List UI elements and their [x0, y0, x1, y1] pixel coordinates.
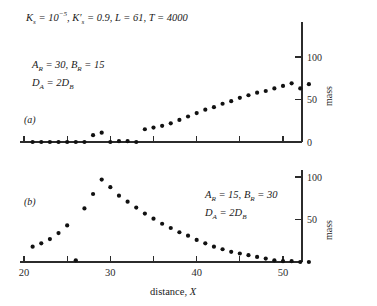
data-point-b-21 [31, 245, 35, 249]
data-point-b-37 [169, 226, 173, 230]
x-tick-label-20: 20 [19, 267, 30, 278]
data-point-b-25 [65, 223, 69, 227]
panel-a-tag: (a) [24, 114, 36, 125]
data-point-a-31 [117, 139, 121, 143]
data-point-a-34 [143, 127, 147, 131]
header-parameters: Ks = 10−5, K′s = 0.9, L = 61, T = 4000 [26, 10, 188, 26]
data-point-a-36 [160, 124, 164, 128]
x-axis-title: distance, X [150, 286, 196, 297]
data-point-a-49 [272, 86, 276, 90]
y-tick-label-1-50: 50 [307, 214, 317, 225]
data-point-a-44 [229, 99, 233, 103]
data-point-a-50 [281, 84, 285, 88]
data-point-b-24 [56, 231, 60, 235]
data-point-b-31 [117, 194, 121, 198]
data-point-b-27 [82, 206, 86, 210]
data-point-a-25 [65, 140, 69, 144]
data-point-b-43 [220, 247, 224, 251]
data-point-a-29 [100, 131, 104, 135]
data-point-a-30 [108, 140, 112, 144]
data-point-b-33 [134, 206, 138, 210]
panel-b-tag: (b) [24, 196, 36, 207]
data-point-a-21 [31, 140, 35, 144]
data-point-a-28 [91, 133, 95, 137]
data-point-b-35 [151, 217, 155, 221]
data-point-b-30 [108, 185, 112, 189]
data-point-b-45 [238, 251, 242, 255]
y-tick-label-0-0: 0 [307, 137, 312, 148]
y-axis-title-panel-1: mass [323, 220, 334, 240]
data-point-a-42 [212, 105, 216, 109]
data-point-a-41 [203, 108, 207, 112]
data-point-a-52 [298, 86, 302, 90]
data-point-a-32 [126, 139, 130, 143]
data-point-a-47 [255, 91, 259, 95]
data-point-a-24 [56, 140, 60, 144]
data-point-a-23 [48, 140, 52, 144]
data-point-b-23 [48, 237, 52, 241]
data-point-a-38 [177, 118, 181, 122]
y-tick-label-0-100: 100 [307, 52, 322, 63]
data-point-a-46 [246, 93, 250, 97]
data-point-b-29 [100, 177, 104, 181]
data-point-a-37 [169, 121, 173, 125]
data-point-b-49 [272, 258, 276, 262]
data-point-b-32 [126, 200, 130, 204]
data-point-a-27 [82, 140, 86, 144]
data-point-b-26 [74, 258, 78, 262]
x-tick-label-50: 50 [278, 267, 289, 278]
data-point-b-53 [307, 260, 311, 264]
data-point-b-28 [91, 192, 95, 196]
data-point-a-40 [195, 111, 199, 115]
data-point-b-44 [229, 250, 233, 254]
data-point-a-53 [307, 82, 311, 86]
data-point-a-39 [186, 114, 190, 118]
data-point-a-48 [264, 89, 268, 93]
data-point-b-51 [290, 259, 294, 263]
data-point-a-33 [134, 140, 138, 144]
data-point-b-46 [246, 253, 250, 257]
panel-a-parameters: AR = 30, BR = 15 DA = 2DB [32, 58, 105, 94]
data-point-b-34 [143, 211, 147, 215]
data-point-b-40 [195, 238, 199, 242]
panel-b-parameters: AR = 15, BR = 30 DA = 2DB [205, 188, 278, 224]
data-point-a-26 [74, 140, 78, 144]
figure-container: 050100mass50100mass20304050 Ks = 10−5, K… [0, 0, 377, 306]
data-point-b-36 [160, 222, 164, 226]
x-tick-label-30: 30 [105, 267, 116, 278]
data-point-b-47 [255, 255, 259, 259]
data-point-b-22 [39, 241, 43, 245]
data-point-b-52 [298, 260, 302, 264]
data-point-a-45 [238, 96, 242, 100]
data-point-b-50 [281, 259, 285, 263]
y-tick-label-1-100: 100 [307, 172, 322, 183]
plot-canvas: 050100mass50100mass20304050 [0, 0, 377, 306]
data-point-b-39 [186, 234, 190, 238]
y-axis-title-panel-0: mass [323, 86, 334, 106]
data-point-a-35 [151, 125, 155, 129]
y-tick-label-0-50: 50 [307, 94, 317, 105]
data-point-b-41 [203, 241, 207, 245]
data-point-a-22 [39, 140, 43, 144]
data-point-a-51 [290, 81, 294, 85]
data-point-b-48 [264, 257, 268, 261]
data-point-b-42 [212, 245, 216, 249]
data-point-a-43 [220, 102, 224, 106]
data-point-b-38 [177, 230, 181, 234]
x-tick-label-40: 40 [191, 267, 202, 278]
